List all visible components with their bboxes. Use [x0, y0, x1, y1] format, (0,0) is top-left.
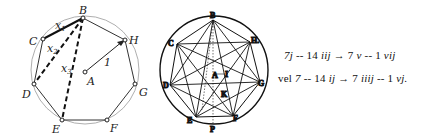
vertex-label-g: G — [139, 86, 148, 99]
power: iij — [321, 49, 331, 61]
power: iiij — [361, 72, 374, 84]
chord-label-x3: x3 — [61, 62, 72, 76]
heptagram-step2 — [170, 20, 260, 117]
heptagon-outline — [34, 18, 135, 120]
term: -- 14 — [293, 49, 321, 61]
chord-label-x1: x1 — [55, 19, 66, 33]
label-h: H. — [251, 36, 259, 45]
label-g: G — [258, 79, 264, 88]
formula-line-2: vel 7 -- 14 ij → 7 iiij -- 1 vj. — [278, 72, 408, 84]
radius-label: 1 — [104, 56, 111, 69]
vertex-label-h: H — [128, 34, 139, 47]
center-label-a: A — [86, 75, 95, 88]
label-f: F — [233, 114, 238, 123]
figure-canvas: B H G F E D C A 1 x1 x2 x3 B H. G F E D … — [0, 0, 426, 140]
formula-line-1: 7j -- 14 iij → 7 v -- 1 vij — [284, 49, 395, 61]
term: -- 1 — [362, 49, 384, 61]
label-b: B — [210, 11, 216, 20]
label-a: A — [212, 71, 218, 80]
label-i: I — [225, 70, 228, 79]
vertex-label-c: C — [29, 35, 38, 48]
label-e: E — [187, 116, 192, 125]
left-heptagon-diagram: B H G F E D C A 1 x1 x2 x3 — [21, 4, 148, 136]
vertex-label-d: D — [21, 88, 31, 101]
power: vj. — [396, 72, 407, 84]
vel-word: vel — [278, 72, 295, 84]
term: -- 14 — [301, 72, 329, 84]
term: → 7 — [335, 72, 361, 84]
label-d: D — [163, 81, 169, 90]
power: vij — [384, 49, 396, 61]
right-heptagram-diagram: B H. G F E D C A I K P — [160, 11, 268, 134]
chord-label-x2: x2 — [47, 42, 58, 56]
term: -- 1 — [374, 72, 396, 84]
label-c: C — [168, 39, 174, 48]
label-k: K — [221, 90, 228, 99]
term: → 7 — [331, 49, 357, 61]
outer-circle — [160, 16, 268, 124]
label-p: P — [210, 125, 215, 134]
vertex-label-b: B — [78, 4, 87, 17]
vertex-markers — [32, 16, 137, 122]
vertex-label-e: E — [51, 123, 60, 136]
vertex-label-f: F — [109, 122, 118, 135]
